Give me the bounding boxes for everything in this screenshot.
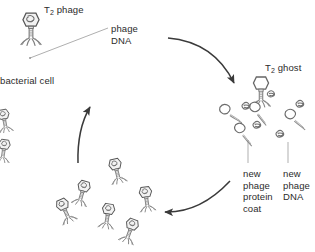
phage-full-icon	[98, 203, 118, 230]
dna-coil-icon	[267, 91, 274, 97]
phage-coat-icon	[285, 108, 305, 131]
dna-coil-icon	[242, 102, 250, 109]
label-t2-phage-suffix: phage	[54, 4, 84, 15]
leader-dot-phage-dna	[29, 57, 31, 59]
leader-line-phage-dna	[30, 28, 108, 58]
phage-full-icon	[0, 108, 14, 133]
phage-full-icon	[137, 186, 156, 213]
label-t2-phage-subscript: 2	[50, 9, 54, 16]
label-t2-ghost-suffix: ghost	[275, 62, 301, 73]
label-bacterial-cell: bacterial cell	[0, 75, 54, 87]
label-phage-dna: phage DNA	[111, 23, 138, 46]
phage-full-icon	[21, 13, 42, 46]
phage-full-icon	[118, 217, 142, 246]
label-new-phage-dna: new phage DNA	[283, 168, 310, 203]
label-new-phage-protein-coat: new phage protein coat	[243, 168, 273, 214]
dna-coil-icon	[253, 121, 261, 128]
label-t2-ghost: T2 ghost	[265, 62, 301, 74]
dna-coil-icon	[296, 100, 304, 107]
arrow-infection-up-icon	[78, 107, 90, 163]
phage-full-icon	[71, 179, 93, 208]
dna-coil-icon	[276, 130, 284, 137]
label-t2-ghost-subscript: 2	[271, 67, 275, 74]
phage-full-icon	[0, 139, 12, 164]
arrow-release-icon	[165, 181, 230, 212]
arrow-to-ghost-icon	[168, 38, 234, 83]
phage-replication-diagram: T2 phage phage DNA bacterial cell T2 gho…	[0, 0, 315, 252]
diagram-canvas	[0, 0, 315, 252]
label-t2-phage: T2 phage	[44, 4, 84, 16]
phage-full-icon	[106, 157, 128, 185]
phage-coat-icon	[233, 123, 254, 146]
